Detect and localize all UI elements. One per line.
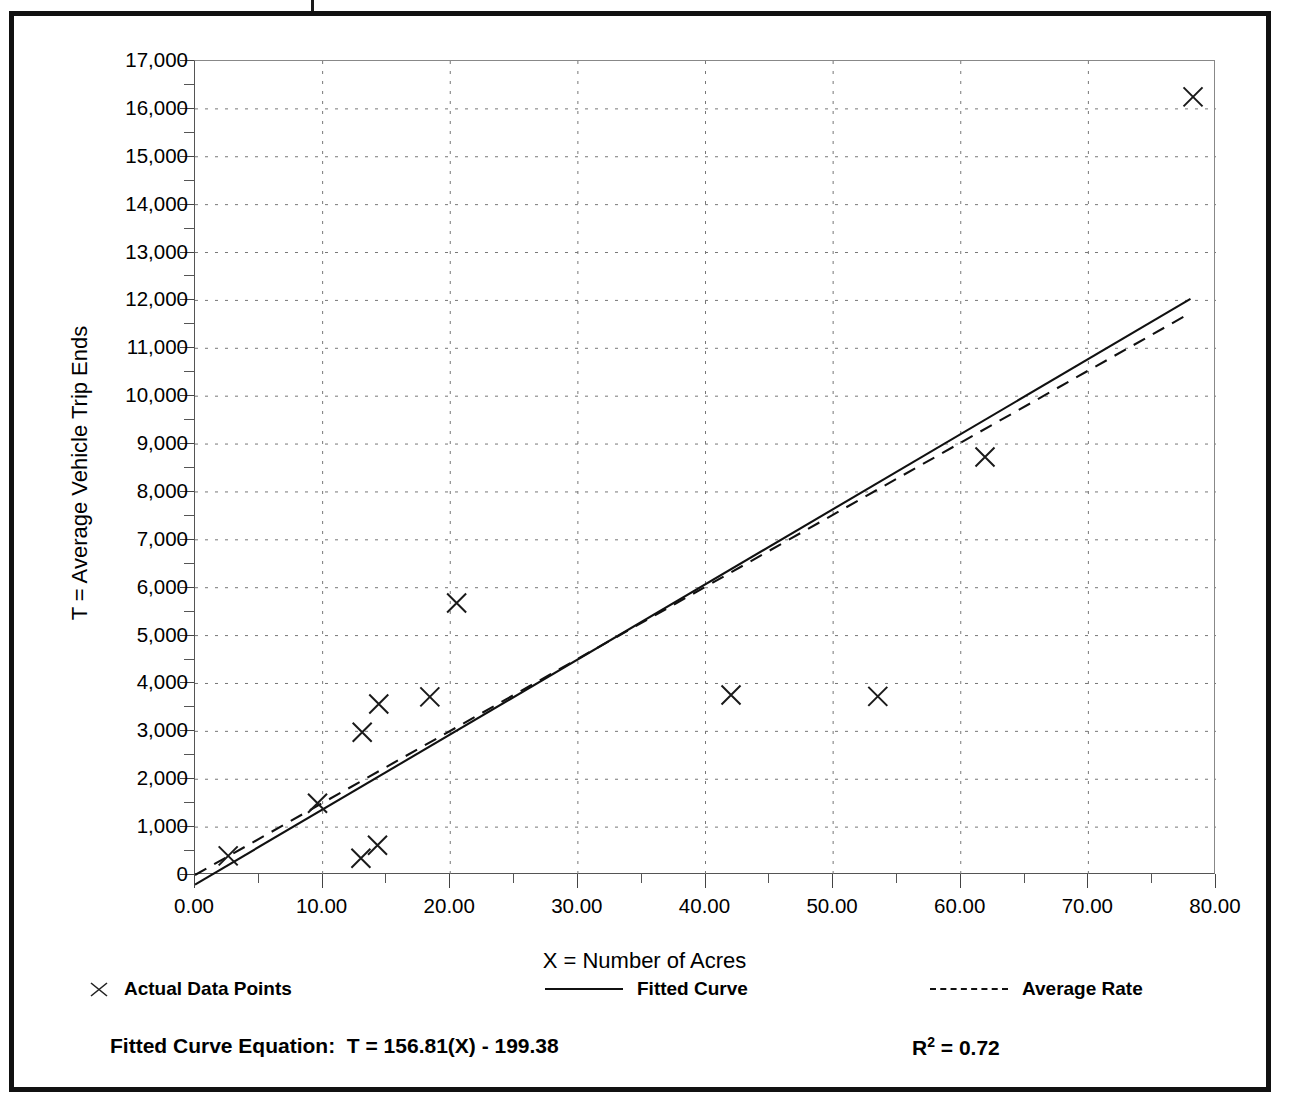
y-axis-tick-label: 7,000: [68, 529, 188, 550]
y-axis-minor-tick: [184, 419, 194, 420]
x-axis-minor-tick: [768, 874, 769, 883]
data-point-marker: [722, 685, 741, 704]
legend-label-average-rate: Average Rate: [1022, 978, 1143, 1000]
y-axis-tick-label: 2,000: [68, 768, 188, 789]
fitted-curve-line: [195, 299, 1190, 885]
legend-item-average-rate: Average Rate: [930, 978, 1143, 1000]
solid-line-icon: [545, 979, 623, 999]
data-point-marker: [420, 687, 439, 706]
x-axis-minor-tick: [1024, 874, 1025, 883]
y-axis-tick-label: 0: [68, 864, 188, 885]
x-axis-tick: [577, 874, 578, 888]
y-axis-minor-tick: [184, 323, 194, 324]
y-axis-tick-label: 9,000: [68, 433, 188, 454]
y-axis-minor-tick: [184, 180, 194, 181]
data-point-marker: [1184, 87, 1203, 106]
y-axis-minor-tick: [184, 706, 194, 707]
r-squared-value: R2 = 0.72: [912, 1034, 1000, 1060]
legend-label-actual-data-points: Actual Data Points: [124, 978, 292, 1000]
plot-svg: [195, 61, 1216, 875]
equation-footer: Fitted Curve Equation: T = 156.81(X) - 1…: [0, 1034, 1289, 1070]
y-axis-minor-tick: [184, 611, 194, 612]
y-axis-tick-label: 12,000: [68, 289, 188, 310]
y-axis-minor-tick: [184, 754, 194, 755]
r-squared-prefix: R: [912, 1036, 927, 1059]
grid-lines: [195, 61, 1216, 875]
x-axis-tick-label: 60.00: [890, 896, 1030, 917]
x-axis-tick: [194, 874, 195, 888]
x-axis-tick: [322, 874, 323, 888]
x-axis-tick: [1215, 874, 1216, 888]
chart-page: T = Average Vehicle Trip Ends 01,0002,00…: [0, 0, 1289, 1116]
y-axis-minor-tick: [184, 132, 194, 133]
data-point-marker: [219, 846, 238, 865]
x-axis-tick: [960, 874, 961, 888]
x-axis-tick-label: 70.00: [1017, 896, 1157, 917]
y-axis-minor-tick: [184, 563, 194, 564]
x-axis-minor-tick: [1151, 874, 1152, 883]
y-axis-tick-label: 6,000: [68, 577, 188, 598]
y-axis-tick-label: 8,000: [68, 481, 188, 502]
y-axis-tick-label: 10,000: [68, 385, 188, 406]
y-axis-tick-label: 11,000: [68, 337, 188, 358]
y-axis-tick-label: 14,000: [68, 194, 188, 215]
x-axis-minor-tick: [896, 874, 897, 883]
legend-item-actual-data-points: Actual Data Points: [88, 978, 292, 1000]
y-axis-minor-tick: [184, 275, 194, 276]
y-axis-minor-tick: [184, 515, 194, 516]
fitted-curve-equation: Fitted Curve Equation: T = 156.81(X) - 1…: [110, 1034, 559, 1058]
x-axis-tick-label: 40.00: [635, 896, 775, 917]
y-axis-title: T = Average Vehicle Trip Ends: [67, 63, 93, 883]
x-axis-tick-label: 20.00: [379, 896, 519, 917]
data-point-marker: [369, 695, 388, 714]
x-axis-minor-tick: [385, 874, 386, 883]
data-point-marker: [368, 836, 387, 855]
data-point-marker: [975, 447, 994, 466]
data-point-marker: [353, 723, 372, 742]
y-axis-minor-tick: [184, 802, 194, 803]
y-axis-tick-label: 17,000: [68, 50, 188, 71]
data-point-marker: [351, 849, 370, 868]
x-axis-tick-label: 80.00: [1145, 896, 1285, 917]
y-axis-minor-tick: [184, 84, 194, 85]
y-axis-tick-label: 4,000: [68, 672, 188, 693]
y-axis-tick-label: 1,000: [68, 816, 188, 837]
legend-item-fitted-curve: Fitted Curve: [545, 978, 748, 1000]
y-axis-tick-label: 15,000: [68, 146, 188, 167]
y-axis-minor-tick: [184, 850, 194, 851]
x-axis-minor-tick: [513, 874, 514, 883]
y-axis-tick-label: 16,000: [68, 98, 188, 119]
data-point-marker: [308, 794, 327, 813]
x-axis-tick-label: 0.00: [124, 896, 264, 917]
data-point-marker: [868, 687, 887, 706]
legend-label-fitted-curve: Fitted Curve: [637, 978, 748, 1000]
r-squared-exponent: 2: [927, 1034, 935, 1050]
chart-legend: Actual Data Points Fitted Curve Average …: [0, 978, 1289, 1010]
x-axis-minor-tick: [258, 874, 259, 883]
x-axis-tick-label: 30.00: [507, 896, 647, 917]
y-axis-minor-tick: [184, 659, 194, 660]
y-axis-minor-tick: [184, 467, 194, 468]
plot-area: [194, 60, 1215, 874]
r-squared-number: = 0.72: [935, 1036, 1000, 1059]
y-axis-tick-label: 5,000: [68, 625, 188, 646]
x-axis-title: X = Number of Acres: [0, 948, 1289, 974]
x-axis-minor-tick: [641, 874, 642, 883]
y-axis-tick-label: 13,000: [68, 242, 188, 263]
average-rate-line: [195, 313, 1190, 875]
trend-lines: [195, 299, 1190, 885]
x-axis-tick: [832, 874, 833, 888]
y-axis-minor-tick: [184, 228, 194, 229]
x-axis-tick: [449, 874, 450, 888]
x-marker-icon: [88, 979, 110, 999]
y-axis-tick-label: 3,000: [68, 720, 188, 741]
x-axis-tick: [705, 874, 706, 888]
x-axis-tick-label: 10.00: [252, 896, 392, 917]
y-axis-minor-tick: [184, 371, 194, 372]
x-axis-tick-label: 50.00: [762, 896, 902, 917]
x-axis-tick: [1087, 874, 1088, 888]
dashed-line-icon: [930, 979, 1008, 999]
